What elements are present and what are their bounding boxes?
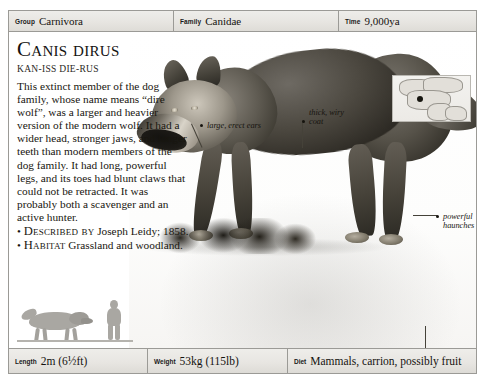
callout-leader-feet [425,326,426,348]
fact-bullet: • [17,225,21,237]
header-cell-family: Family Canidae [173,11,338,31]
wolf-hind-leg-right [381,141,408,238]
fact-key-habitat: Habitat [24,238,66,252]
human-leg-left [108,324,113,340]
wolf-silhouette [19,308,93,340]
map-range-marker [417,96,423,102]
length-value: 2m (6½ft) [41,355,88,367]
footer-cell-weight: Weight 53kg (115lb) [147,349,287,373]
fact-described-by: • Described by Joseph Leidy; 1858. [17,225,189,238]
callout-leader-haunches [413,215,437,216]
size-comparison-graphic [17,300,135,346]
species-fact-card: Group Carnivora Family Canidae Time 9,00… [8,10,477,374]
fact-bullet: • [17,239,21,251]
callout-dot [436,215,439,218]
header-cell-group: Group Carnivora [9,11,173,31]
footer-cell-length: Length 2m (6½ft) [9,349,147,373]
header-cell-time: Time 9,000ya [338,11,476,31]
weight-value: 53kg (115lb) [180,355,239,367]
family-label: Family [180,18,201,25]
measurements-footer: Length 2m (6½ft) Weight 53kg (115lb) Die… [8,348,477,374]
page-title: Canis dirus [17,38,189,61]
length-label: Length [15,358,37,365]
content-panel: Canis dirus KAN-ISS DIE-RUS This extinct… [8,32,477,348]
callout-thick-wiry-coat: thick, wiry coat [309,108,344,127]
wolf-paw-3 [345,232,369,243]
footer-cell-diet: Diet Mammals, carrion, possibly fruit [287,349,476,373]
taxonomy-header: Group Carnivora Family Canidae Time 9,00… [8,10,477,32]
fact-habitat: • Habitat Grassland and woodland. [17,239,189,252]
callout-dot [200,124,203,127]
weight-label: Weight [154,358,176,365]
family-value: Canidae [205,15,241,27]
diet-label: Diet [294,358,306,365]
fact-key-described-by: Described by [24,224,95,238]
callout-dot [302,120,305,123]
description-text: This extinct member of the dog family, w… [17,80,189,224]
fact-value-habitat: Grassland and woodland. [68,239,183,251]
callout-line: thick, wiry [309,108,344,117]
group-label: Group [15,18,35,25]
callout-line: powerful [443,212,474,221]
callout-line: coat [309,117,344,126]
time-label: Time [345,18,360,25]
human-silhouette [103,300,125,340]
callout-powerful-haunches: powerful haunches [443,212,474,231]
scale-baseline [17,340,133,342]
distribution-map [392,75,471,122]
callout-large-erect-ears: large, erect ears [207,121,261,130]
time-value: 9,000ya [364,15,399,27]
callout-leader-coat [302,120,303,148]
map-landmass-5 [445,106,467,121]
diet-value: Mammals, carrion, possibly fruit [310,355,461,367]
group-value: Carnivora [39,15,83,27]
callout-line: haunches [443,221,474,230]
callout-line: large, erect ears [207,121,261,130]
pronunciation: KAN-ISS DIE-RUS [17,64,189,74]
description-column: Canis dirus KAN-ISS DIE-RUS This extinct… [17,38,189,252]
human-leg-right [115,324,120,340]
wolf-paw-4 [379,234,403,245]
silhouette-snout [81,318,93,324]
fact-value-described-by: Joseph Leidy; 1858. [97,225,188,237]
